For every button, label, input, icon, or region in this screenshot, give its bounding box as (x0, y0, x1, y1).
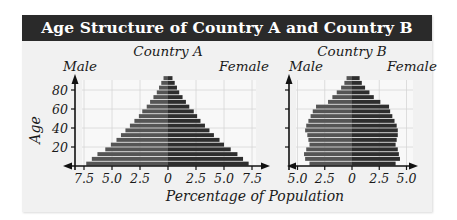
male-bar (125, 128, 168, 132)
male-bar (307, 133, 352, 137)
male-bar (341, 86, 352, 90)
male-bar (153, 95, 168, 99)
female-bar (352, 138, 397, 142)
female-bar (352, 128, 398, 132)
male-bar (139, 114, 168, 118)
female-bar (168, 128, 209, 132)
male-bar (150, 100, 168, 104)
female-bar (168, 162, 249, 166)
female-bar (352, 162, 396, 166)
x-tick-label: 5.0 (214, 171, 234, 186)
y-tick-label: 60 (52, 102, 68, 117)
female-bar (168, 124, 205, 128)
male-bar (121, 133, 168, 137)
male-bar (92, 157, 168, 161)
female-bar (168, 147, 231, 151)
male-bar (164, 76, 168, 80)
country-title: Country A (133, 43, 203, 59)
female-bar (352, 152, 399, 156)
female-bar (352, 119, 395, 123)
male-bar (337, 90, 352, 94)
female-bar (168, 143, 224, 147)
female-bar (168, 157, 243, 161)
male-bar (311, 114, 352, 118)
female-bar (352, 114, 392, 118)
male-bar (157, 90, 168, 94)
y-axis-label: Age (27, 116, 43, 145)
x-tick-label: 5.0 (397, 171, 417, 186)
female-bar (352, 90, 369, 94)
male-bar (86, 162, 168, 166)
female-bar (352, 157, 400, 161)
pyramid-country-a: Country AMaleFemale204060807.55.02.502.5… (51, 43, 270, 186)
x-tick-label: 2.5 (368, 171, 389, 186)
male-bar (111, 143, 168, 147)
female-label: Female (218, 58, 269, 74)
female-bar (168, 133, 214, 137)
female-bar (352, 100, 380, 104)
male-bar (308, 138, 352, 142)
male-label: Male (288, 58, 323, 74)
male-bar (309, 143, 352, 147)
male-bar (328, 100, 352, 104)
female-bar (352, 105, 389, 109)
x-tick-label: 5.0 (102, 171, 122, 186)
male-bar (344, 81, 352, 85)
male-bar (306, 124, 352, 128)
male-bar (306, 147, 352, 151)
female-bar (352, 86, 365, 90)
female-bar (168, 114, 197, 118)
male-bar (147, 105, 168, 109)
female-bar (168, 86, 177, 90)
male-bar (97, 152, 168, 156)
male-bar (130, 124, 168, 128)
male-bar (308, 119, 352, 123)
female-bar (168, 109, 194, 113)
male-bar (304, 152, 352, 156)
pyramid-country-b: Country BMaleFemale5.02.502.55.0 (285, 43, 437, 186)
female-bar (168, 152, 237, 156)
male-bar (309, 162, 352, 166)
female-bar (168, 119, 200, 123)
x-tick-label: 7.5 (242, 171, 262, 186)
female-bar (352, 147, 398, 151)
male-bar (316, 105, 352, 109)
x-tick-label: 0 (164, 171, 172, 186)
male-bar (159, 86, 168, 90)
x-tick-label: 7.5 (74, 171, 94, 186)
female-label: Female (386, 58, 437, 74)
x-tick-label: 2.5 (185, 171, 206, 186)
female-bar (352, 81, 362, 85)
female-bar (352, 76, 360, 80)
male-label: Male (62, 58, 97, 74)
male-bar (116, 138, 168, 142)
female-bar (168, 138, 220, 142)
y-tick-label: 80 (52, 83, 68, 98)
x-tick-label: 2.5 (129, 171, 150, 186)
country-title: Country B (317, 43, 387, 59)
male-bar (305, 157, 352, 161)
y-tick-label: 40 (51, 121, 68, 136)
female-bar (352, 133, 398, 137)
male-bar (161, 81, 168, 85)
male-bar (142, 109, 168, 113)
x-tick-label: 2.5 (314, 171, 335, 186)
male-bar (134, 119, 168, 123)
female-bar (352, 95, 374, 99)
female-bar (168, 81, 175, 85)
male-bar (313, 109, 352, 113)
female-bar (168, 76, 172, 80)
female-bar (168, 90, 179, 94)
x-tick-label: 5.0 (288, 171, 308, 186)
x-axis-label: Percentage of Population (165, 188, 344, 204)
population-pyramids: Country AMaleFemale204060807.55.02.502.5… (0, 0, 457, 220)
female-bar (352, 109, 390, 113)
female-bar (168, 95, 183, 99)
female-bar (352, 124, 397, 128)
male-bar (105, 147, 168, 151)
y-tick-label: 20 (51, 140, 68, 155)
female-bar (168, 105, 189, 109)
male-bar (347, 76, 352, 80)
male-bar (305, 128, 352, 132)
male-bar (332, 95, 352, 99)
